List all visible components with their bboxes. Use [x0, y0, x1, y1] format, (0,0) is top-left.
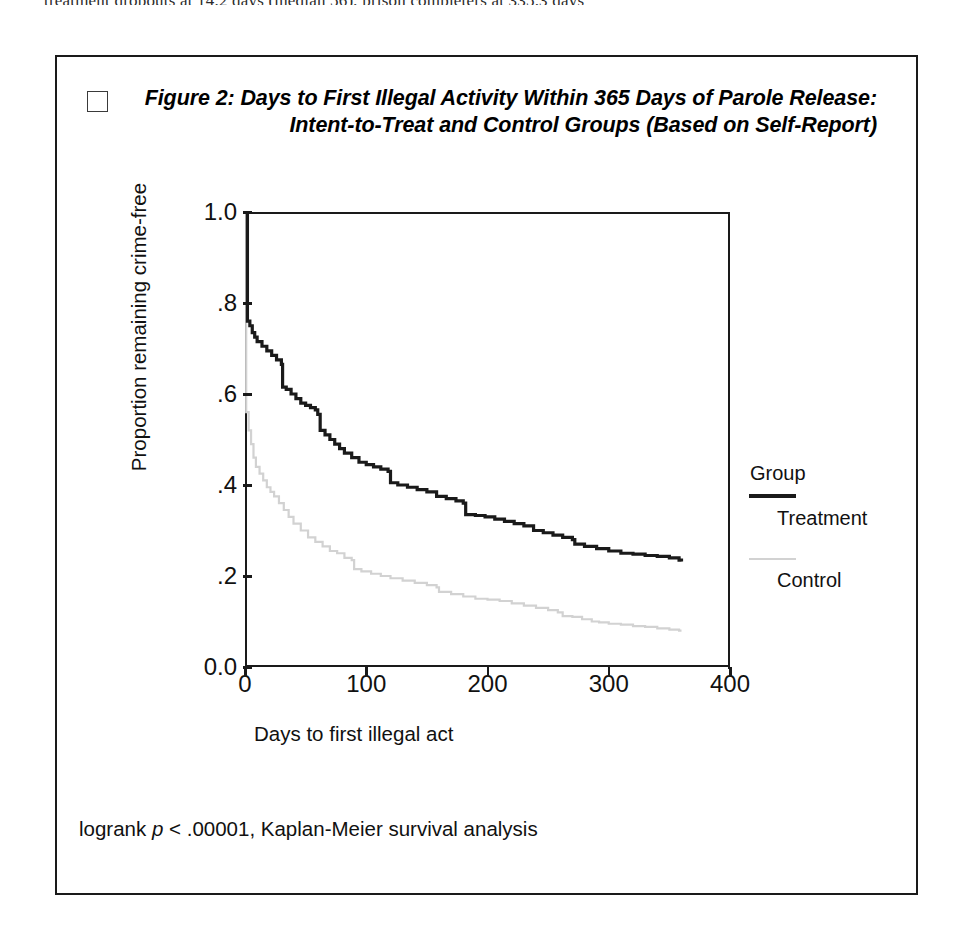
x-tick-mark	[365, 667, 368, 676]
y-tick-mark	[243, 484, 252, 487]
footnote-p-symbol: p	[152, 817, 163, 840]
footnote-prefix: logrank	[79, 817, 152, 840]
x-tick-mark	[244, 667, 247, 676]
figure-title-row: Figure 2: Days to First Illegal Activity…	[87, 85, 887, 139]
x-axis-title: Days to first illegal act	[254, 722, 453, 746]
legend-label-treatment: Treatment	[749, 507, 909, 530]
x-axis-tick-labels: 0100200300400	[245, 671, 730, 711]
page-top-cut-text: treatment dropouts at 14.2 days (median …	[44, 0, 924, 5]
y-axis-tick-labels: 0.0.2.4.6.81.0	[175, 212, 237, 667]
y-tick-mark	[243, 211, 252, 214]
legend-label-control: Control	[749, 569, 909, 592]
y-tick-mark	[243, 575, 252, 578]
x-tick-mark	[487, 667, 490, 676]
y-tick-mark	[243, 302, 252, 305]
treatment-curve	[245, 212, 682, 561]
legend-swatch-control	[749, 558, 796, 561]
y-axis-title: Proportion remaining crime-free	[127, 162, 151, 492]
empty-square-marker-icon	[87, 91, 108, 112]
y-tick-label: 1.0	[175, 200, 237, 224]
y-tick-label: .2	[175, 564, 237, 588]
figure-title: Figure 2: Days to First Illegal Activity…	[122, 85, 887, 139]
survival-curves	[245, 212, 730, 667]
y-tick-label: .6	[175, 382, 237, 406]
legend-swatch-treatment	[749, 494, 796, 498]
legend-entry-control: Control	[749, 558, 909, 593]
figure-footnote: logrank p < .00001, Kaplan-Meier surviva…	[79, 817, 538, 841]
x-tick-mark	[608, 667, 611, 676]
legend-entry-treatment: Treatment	[749, 494, 909, 530]
footnote-rest: < .00001, Kaplan-Meier survival analysis	[163, 817, 537, 840]
figure-frame: Figure 2: Days to First Illegal Activity…	[55, 55, 918, 895]
control-curve	[245, 212, 682, 631]
plot-area	[245, 212, 730, 667]
y-tick-label: .8	[175, 291, 237, 315]
y-tick-label: .4	[175, 473, 237, 497]
y-tick-mark	[243, 393, 252, 396]
legend-title: Group	[749, 462, 909, 485]
x-tick-mark	[729, 667, 732, 676]
legend: Group Treatment Control	[749, 462, 909, 620]
